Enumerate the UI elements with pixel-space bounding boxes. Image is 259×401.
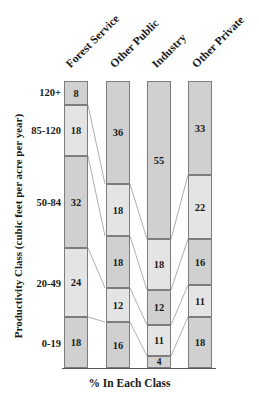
segment-value: 18 [113,205,124,216]
segment-fs-50-84: 32 [64,156,88,248]
segment-op-85-plus: 36 [106,81,130,184]
bar-other-private: 33 22 16 11 18 [188,81,212,368]
segment-fs-85-120: 18 [64,105,88,156]
segment-value: 24 [71,277,82,288]
segment-ind-20-49: 11 [147,325,171,356]
segment-ind-0-19: 4 [147,356,171,368]
segment-value: 12 [154,302,165,313]
segment-fs-120-plus: 8 [64,81,88,105]
bar-industry: 55 18 12 11 4 [147,81,171,368]
segment-value: 4 [157,357,162,367]
segment-op-0-19: 16 [106,322,130,368]
x-axis-baseline [62,368,216,369]
segment-fs-0-19: 18 [64,317,88,368]
bar-forest-service: 8 18 32 24 18 [64,81,88,368]
segment-opr-20-49: 11 [188,285,212,317]
segment-value: 18 [71,337,82,348]
segment-value: 18 [113,257,124,268]
segment-opr-50-84: 22 [188,175,212,239]
segment-opr-0-19: 18 [188,317,212,368]
segment-value: 18 [71,125,82,136]
segment-opr-85-plus: 33 [188,81,212,175]
segment-value: 32 [71,197,82,208]
segment-value: 16 [113,340,124,351]
segment-value: 16 [195,257,206,268]
segment-value: 55 [154,155,165,166]
segment-value: 8 [73,88,78,99]
segment-value: 11 [154,335,164,346]
x-axis-title: % In Each Class [0,377,259,389]
segment-value: 18 [154,259,165,270]
segment-value: 12 [113,300,124,311]
segment-op-20-49: 12 [106,288,130,322]
bar-other-public: 36 18 18 12 16 [106,81,130,368]
segment-ind-50-84: 18 [147,239,171,290]
segment-ind-20-49-upper: 12 [147,290,171,325]
segment-op-20-49-upper: 18 [106,236,130,288]
segment-ind-85-plus: 55 [147,81,171,239]
segment-fs-20-49: 24 [64,248,88,317]
segment-value: 36 [113,127,124,138]
segment-value: 18 [195,337,206,348]
segment-opr-20-49-upper: 16 [188,239,212,285]
segment-value: 11 [195,296,205,307]
segment-value: 22 [195,202,206,213]
segment-op-50-84: 18 [106,184,130,236]
segment-value: 33 [195,123,206,134]
